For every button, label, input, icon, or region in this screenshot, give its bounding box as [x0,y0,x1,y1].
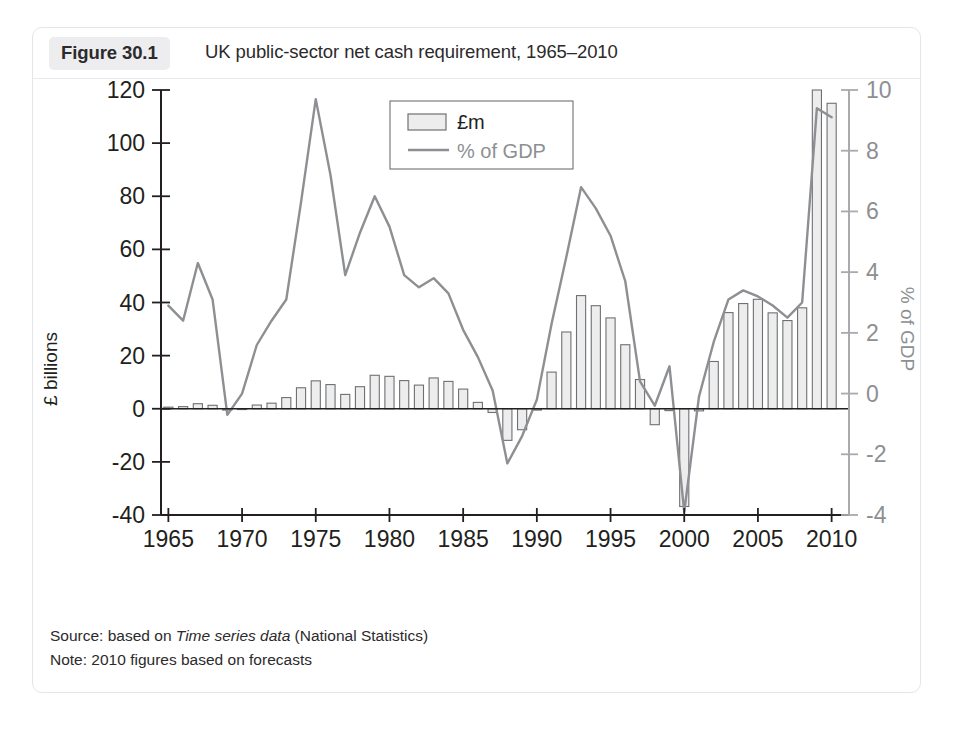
bar-1993 [577,296,586,409]
y-tick-label-left--20: -20 [112,449,145,475]
x-tick-label-1975: 1975 [290,526,341,552]
figure-card: Figure 30.1 UK public-sector net cash re… [32,27,921,693]
figure-title: UK public-sector net cash requirement, 1… [205,41,618,63]
chart-legend: £m % of GDP [390,101,573,169]
bar-1978 [355,387,364,409]
bar-1975 [311,381,320,409]
y-tick-label-right--2: -2 [866,441,886,467]
y-tick-label-right-4: 4 [866,259,879,285]
bar-1994 [591,306,600,409]
bar-1985 [459,389,468,409]
y-tick-label-right--4: -4 [866,502,887,528]
x-tick-label-1990: 1990 [511,526,562,552]
y-tick-label-left-0: 0 [132,396,145,422]
y-tick-label-right-2: 2 [866,320,879,346]
bar-1991 [547,372,556,409]
y-tick-label-left--40: -40 [112,502,145,528]
x-tick-label-1980: 1980 [364,526,415,552]
bar-2008 [798,308,807,409]
x-tick-label-1965: 1965 [143,526,194,552]
bar-2005 [753,299,762,408]
bar-1981 [400,381,409,409]
bar-1986 [473,402,482,408]
footnote-source-suffix: (National Statistics) [290,627,428,644]
legend-label-gbp: £m [457,111,485,133]
bar-1983 [429,378,438,409]
legend-swatch-bar [408,114,446,130]
figure-footnotes: Source: based on Time series data (Natio… [50,624,428,672]
x-tick-label-2010: 2010 [806,526,857,552]
figure-header: Figure 30.1 UK public-sector net cash re… [33,28,920,79]
bar-1979 [370,375,379,408]
y-axis-label-right: % of GDP [897,287,918,371]
bar-1972 [267,403,276,409]
x-tick-label-1995: 1995 [585,526,636,552]
bar-2003 [724,313,733,409]
bar-1980 [385,376,394,408]
x-tick-label-2005: 2005 [732,526,783,552]
bar-1977 [341,394,350,408]
y-tick-label-left-80: 80 [119,183,145,209]
bar-1997 [635,380,644,409]
y-tick-label-left-40: 40 [119,290,145,316]
bar-1984 [444,381,453,408]
bar-1996 [621,345,630,409]
chart-svg: -40-20020406080100120-4-2024681019651970… [33,79,922,635]
bar-2007 [783,321,792,409]
y-tick-label-right-10: 10 [866,79,892,103]
figure-number-badge: Figure 30.1 [49,37,170,70]
bar-2006 [768,313,777,409]
bar-1995 [606,318,615,409]
x-tick-label-2000: 2000 [659,526,710,552]
footnote-source-title: Time series data [176,627,290,644]
bar-1976 [326,385,335,409]
bar-1992 [562,332,571,409]
footnote-source-prefix: Source: based on [50,627,176,644]
y-tick-label-right-6: 6 [866,198,879,224]
y-tick-label-left-100: 100 [107,130,145,156]
bar-1974 [296,388,305,409]
y-tick-label-left-120: 120 [107,79,145,103]
bar-1998 [650,409,659,425]
footnote-source: Source: based on Time series data (Natio… [50,624,428,648]
footnote-note: Note: 2010 figures based on forecasts [50,648,428,672]
y-tick-label-left-60: 60 [119,236,145,262]
bar-2002 [709,361,718,408]
chart-plot-area: -40-20020406080100120-4-2024681019651970… [33,79,922,635]
x-tick-label-1970: 1970 [216,526,267,552]
y-tick-label-right-0: 0 [866,381,879,407]
bar-1982 [414,385,423,409]
bar-1988 [503,409,512,441]
bar-2010 [827,103,836,408]
bar-2004 [739,304,748,409]
bar-1973 [282,398,291,409]
y-tick-label-right-8: 8 [866,138,879,164]
y-tick-label-left-20: 20 [119,343,145,369]
legend-label-gdp: % of GDP [457,140,546,162]
y-axis-label-left: £ billions [40,332,61,406]
x-tick-label-1985: 1985 [438,526,489,552]
